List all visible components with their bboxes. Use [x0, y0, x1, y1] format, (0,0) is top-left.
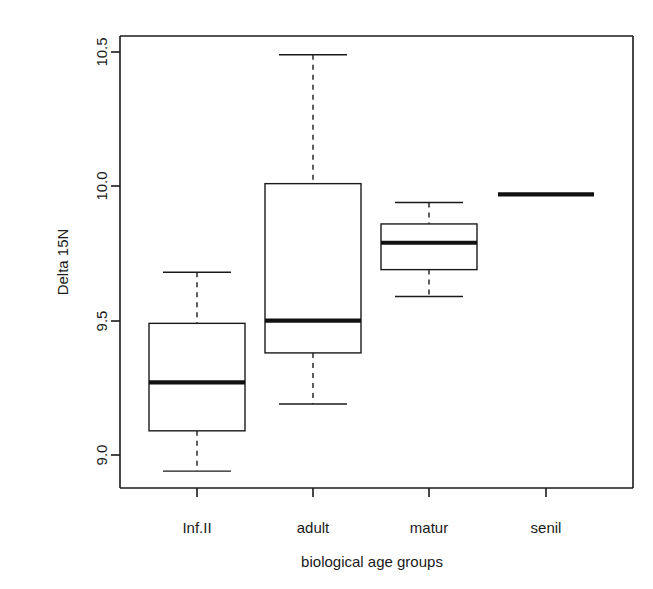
x-axis-tick-labels: Inf.II adult matur senil [182, 519, 561, 536]
x-tick-label-adult: adult [297, 519, 330, 536]
iqr-box [265, 184, 361, 353]
y-tick-label-2: 9.5 [93, 311, 110, 332]
box-series-layer [149, 55, 594, 471]
y-axis-ticks [111, 52, 120, 455]
y-axis-tick-labels: 10.5 10.0 9.5 9.0 [93, 37, 110, 465]
iqr-box [381, 224, 477, 270]
x-axis-ticks [197, 488, 546, 497]
y-tick-label-1: 10.0 [93, 171, 110, 200]
plot-canvas: 10.5 10.0 9.5 9.0 Delta 15N Inf.II adult… [0, 0, 653, 589]
x-tick-label-matur: matur [410, 519, 448, 536]
y-tick-label-3: 9.0 [93, 445, 110, 466]
y-tick-label-0: 10.5 [93, 37, 110, 66]
box-group-inf-ii[interactable] [149, 272, 245, 471]
box-group-matur[interactable] [381, 202, 477, 296]
x-tick-label-senil: senil [531, 519, 562, 536]
x-axis-title: biological age groups [301, 553, 443, 570]
x-tick-label-inf-ii: Inf.II [182, 519, 211, 536]
boxplot-figure: 10.5 10.0 9.5 9.0 Delta 15N Inf.II adult… [0, 0, 653, 589]
box-group-adult[interactable] [265, 55, 361, 404]
y-axis-title: Delta 15N [54, 229, 71, 296]
iqr-box [149, 323, 245, 430]
